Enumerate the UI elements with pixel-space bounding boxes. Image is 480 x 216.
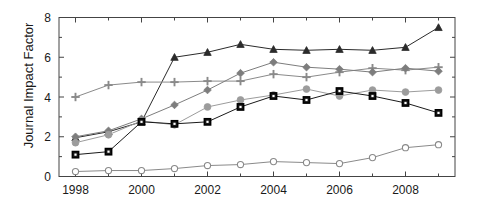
series-square-marker-center (140, 121, 142, 123)
series-circle-open-line (76, 145, 439, 172)
series-diamond-marker (369, 68, 377, 76)
x-tick-label: 2000 (128, 183, 155, 197)
series-triangle-marker (402, 44, 409, 51)
series-diamond-marker (303, 63, 311, 71)
series-circle-filled-line (76, 89, 439, 143)
series-circle-open-marker (270, 158, 276, 164)
x-tick-label: 2002 (194, 183, 221, 197)
series-circle-open-marker (402, 145, 408, 151)
series-circle-filled-marker (303, 86, 310, 93)
series-square-marker-center (272, 95, 274, 97)
chart-plot-area: 19982000200220042006200802468 (0, 0, 480, 216)
series-square-marker-center (239, 106, 241, 108)
series-square-marker-center (437, 112, 439, 114)
series-square-marker-center (305, 99, 307, 101)
series-square-marker-center (404, 102, 406, 104)
series-circle-open-marker (435, 142, 441, 148)
x-tick-label: 2004 (260, 183, 287, 197)
series-triangle-marker (237, 41, 244, 48)
series-circle-open-marker (369, 155, 375, 161)
series-circle-open-marker (105, 167, 111, 173)
series-circle-open-marker (72, 168, 78, 174)
series-circle-filled-marker (237, 97, 244, 104)
series-diamond-marker (204, 86, 212, 94)
series-circle-filled-marker (105, 131, 112, 138)
series-triangle-marker (435, 24, 442, 31)
series-square-marker-center (74, 154, 76, 156)
series-circle-filled-marker (402, 89, 409, 96)
x-tick-label: 2006 (326, 183, 353, 197)
series-circle-open-marker (237, 161, 243, 167)
y-tick-label: 8 (44, 11, 51, 25)
series-circle-open-marker (336, 160, 342, 166)
series-circle-open-marker (171, 165, 177, 171)
journal-impact-factor-chart: Journal Impact Factor 199820002002200420… (0, 0, 480, 216)
y-tick-label: 0 (44, 170, 51, 184)
series-square-marker-center (206, 121, 208, 123)
series-plus-line (76, 67, 439, 97)
series-square-marker-center (371, 95, 373, 97)
series-square-marker-center (173, 123, 175, 125)
series-diamond-marker (270, 58, 278, 66)
y-tick-label: 4 (44, 91, 51, 105)
series-diamond-marker (237, 69, 245, 77)
series-diamond-marker (435, 67, 443, 75)
series-square-marker-center (338, 90, 340, 92)
x-tick-label: 2008 (392, 183, 419, 197)
x-tick-label: 1998 (62, 183, 89, 197)
y-tick-label: 6 (44, 51, 51, 65)
series-circle-filled-marker (435, 87, 442, 94)
series-circle-filled-marker (72, 139, 79, 146)
series-circle-filled-marker (204, 104, 211, 111)
series-triangle-line (76, 27, 439, 137)
series-circle-open-marker (204, 162, 210, 168)
series-circle-open-marker (138, 167, 144, 173)
series-circle-open-marker (303, 159, 309, 165)
series-diamond-marker (171, 101, 179, 109)
series-square-marker-center (107, 151, 109, 153)
y-tick-label: 2 (44, 130, 51, 144)
